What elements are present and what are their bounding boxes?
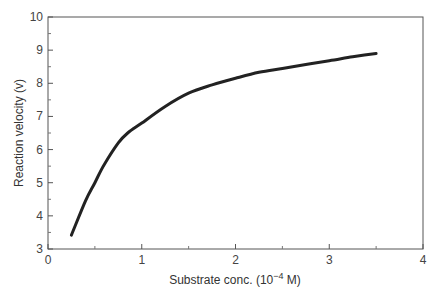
y-tick-label: 5 — [36, 176, 43, 190]
y-tick-label: 4 — [36, 209, 43, 223]
x-tick-label: 2 — [232, 253, 239, 267]
x-axis-label: Substrate conc. (10−4 M) — [169, 271, 301, 287]
y-tick-label: 3 — [36, 242, 43, 256]
y-tick-label: 10 — [30, 10, 44, 24]
y-tick-label: 8 — [36, 76, 43, 90]
data-curve — [71, 54, 376, 236]
x-tick-label: 4 — [420, 253, 427, 267]
y-tick-label: 7 — [36, 109, 43, 123]
x-axis-ticks: 01234 — [45, 244, 427, 267]
y-tick-label: 6 — [36, 143, 43, 157]
plot-frame — [48, 17, 423, 249]
michaelis-menten-chart: 345678910 01234 Reaction velocity (v) Su… — [0, 0, 440, 293]
x-tick-label: 3 — [326, 253, 333, 267]
x-tick-label: 1 — [138, 253, 145, 267]
x-tick-label: 0 — [45, 253, 52, 267]
y-tick-label: 9 — [36, 43, 43, 57]
y-axis-ticks: 345678910 — [30, 10, 53, 256]
y-axis-label: Reaction velocity (v) — [12, 79, 26, 187]
